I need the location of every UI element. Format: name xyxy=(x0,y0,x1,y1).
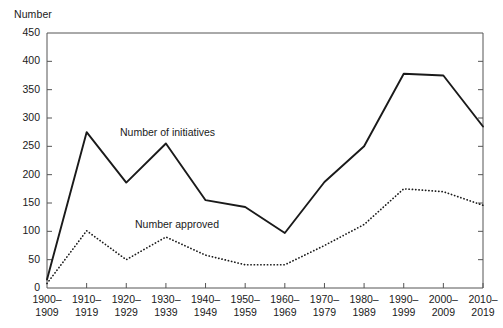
series-label-approved: Number approved xyxy=(135,218,219,230)
series-label-initiatives: Number of initiatives xyxy=(120,126,215,138)
series-line-number-approved xyxy=(47,189,483,284)
series-line-number-of-initiatives xyxy=(47,74,483,280)
plot-area xyxy=(0,0,503,328)
chart-container: Number 050100150200250300350400450 1900–… xyxy=(0,0,503,328)
x-axis-ticks xyxy=(87,283,483,288)
plot-frame xyxy=(47,33,483,288)
y-axis-ticks xyxy=(47,61,483,259)
data-series-layer xyxy=(47,74,483,284)
